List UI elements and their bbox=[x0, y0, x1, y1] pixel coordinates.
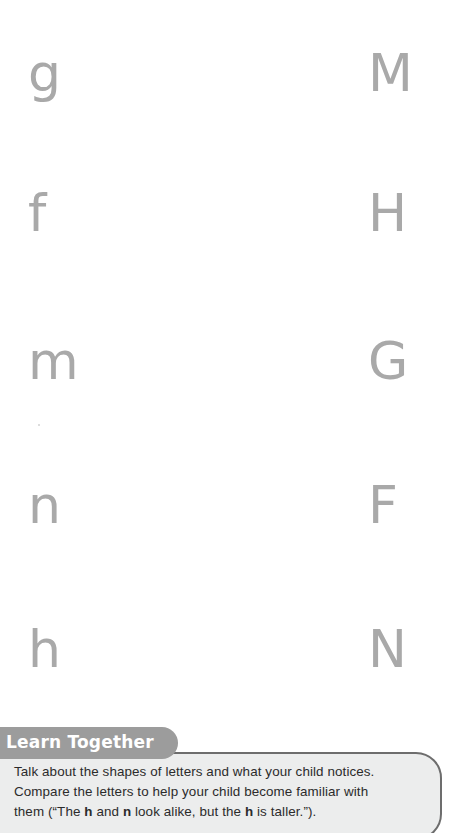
lowercase-letter[interactable]: f bbox=[28, 187, 47, 239]
callout-text-run: and bbox=[93, 804, 123, 819]
letter-matching-worksheet: gMfHmGnFhN bbox=[0, 0, 458, 720]
callout-text-run: look alike, but the bbox=[131, 804, 245, 819]
uppercase-letter[interactable]: H bbox=[368, 187, 408, 239]
print-speck bbox=[38, 424, 40, 426]
lowercase-letter[interactable]: h bbox=[28, 623, 61, 675]
uppercase-letter[interactable]: N bbox=[368, 623, 407, 675]
callout-text-run: them (“The bbox=[14, 804, 84, 819]
lowercase-letter[interactable]: m bbox=[28, 335, 79, 387]
callout-text-run: Talk about the shapes of letters and wha… bbox=[14, 764, 374, 779]
learn-together-header-pill: Learn Together bbox=[0, 727, 178, 759]
emphasized-letter: h bbox=[84, 804, 92, 819]
callout-line: Compare the letters to help your child b… bbox=[14, 782, 414, 802]
uppercase-letter[interactable]: F bbox=[368, 479, 398, 531]
uppercase-letter[interactable]: M bbox=[368, 47, 413, 99]
uppercase-letter[interactable]: G bbox=[368, 335, 409, 387]
emphasized-letter: n bbox=[123, 804, 131, 819]
callout-line: Talk about the shapes of letters and wha… bbox=[14, 762, 414, 782]
lowercase-letter[interactable]: n bbox=[28, 479, 61, 531]
learn-together-text: Talk about the shapes of letters and wha… bbox=[14, 762, 414, 822]
learn-together-callout: Talk about the shapes of letters and wha… bbox=[0, 752, 442, 833]
lowercase-letter[interactable]: g bbox=[28, 47, 62, 99]
callout-text-run: is taller.”). bbox=[253, 804, 316, 819]
learn-together-title: Learn Together bbox=[6, 727, 154, 759]
callout-text-run: Compare the letters to help your child b… bbox=[14, 784, 368, 799]
callout-line: them (“The h and n look alike, but the h… bbox=[14, 802, 414, 822]
emphasized-letter: h bbox=[245, 804, 253, 819]
